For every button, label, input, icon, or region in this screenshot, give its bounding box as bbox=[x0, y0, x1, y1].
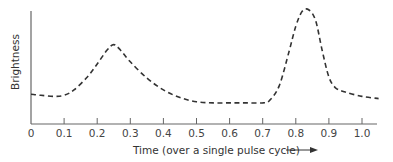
x-tick-label: 0.4 bbox=[155, 127, 172, 139]
x-axis-title: Time (over a single pulse cycle) bbox=[132, 144, 318, 156]
brightness-chart: 00.10.20.30.40.50.60.70.80.91.0 Brightne… bbox=[0, 0, 393, 162]
x-tick-label: 0.2 bbox=[89, 127, 106, 139]
x-tick-label: 0.7 bbox=[254, 127, 271, 139]
x-tick-label: 0.9 bbox=[321, 127, 338, 139]
brightness-curve bbox=[31, 9, 379, 103]
x-tick-label: 0.1 bbox=[56, 127, 73, 139]
x-tick-label: 0.5 bbox=[188, 127, 205, 139]
x-tick-label: 0.3 bbox=[122, 127, 139, 139]
x-tick-label: 0.6 bbox=[221, 127, 238, 139]
x-tick-label: 0 bbox=[28, 127, 35, 139]
x-tick-label: 0.8 bbox=[287, 127, 304, 139]
x-tick-label: 1.0 bbox=[354, 127, 371, 139]
x-axis: 00.10.20.30.40.50.60.70.80.91.0 bbox=[28, 118, 377, 139]
x-ticks: 00.10.20.30.40.50.60.70.80.91.0 bbox=[28, 118, 371, 139]
x-axis-label: Time (over a single pulse cycle) bbox=[132, 144, 300, 156]
y-axis-label: Brightness bbox=[9, 34, 21, 90]
arrow-right-icon bbox=[310, 147, 318, 153]
